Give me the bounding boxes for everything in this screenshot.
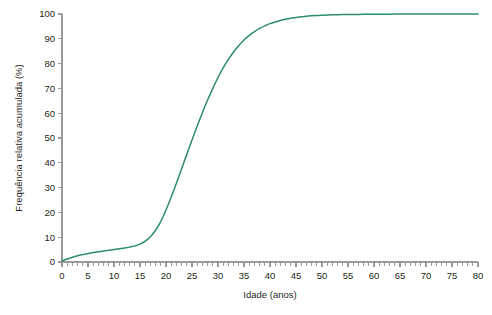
x-tick-label: 20: [161, 270, 172, 281]
x-tick-label: 15: [135, 270, 146, 281]
y-tick-label: 50: [44, 132, 55, 143]
x-tick-label: 55: [343, 270, 354, 281]
x-tick-label: 5: [85, 270, 90, 281]
y-tick-label: 0: [50, 256, 55, 267]
x-tick-label: 0: [59, 270, 64, 281]
x-axis-ticks: 05101520253035404550556065707580: [59, 262, 483, 281]
x-tick-label: 50: [317, 270, 328, 281]
y-tick-label: 40: [44, 157, 55, 168]
x-tick-label: 75: [447, 270, 458, 281]
y-tick-label: 20: [44, 207, 55, 218]
x-tick-label: 25: [187, 270, 198, 281]
x-tick-label: 65: [395, 270, 406, 281]
x-tick-label: 45: [291, 270, 302, 281]
x-tick-label: 70: [421, 270, 432, 281]
y-tick-label: 90: [44, 33, 55, 44]
x-tick-label: 80: [473, 270, 484, 281]
y-axis-title: Frequência relativa acumulada (%): [13, 64, 24, 211]
series-line-frequencia-acumulada: [62, 14, 478, 261]
y-tick-label: 80: [44, 58, 55, 69]
x-tick-label: 40: [265, 270, 276, 281]
x-tick-label: 10: [109, 270, 120, 281]
x-tick-label: 35: [239, 270, 250, 281]
x-tick-label: 60: [369, 270, 380, 281]
y-tick-label: 100: [39, 8, 55, 19]
y-tick-label: 60: [44, 108, 55, 119]
x-axis-title: Idade (anos): [243, 289, 296, 300]
y-tick-label: 70: [44, 83, 55, 94]
y-tick-label: 10: [44, 232, 55, 243]
y-tick-label: 30: [44, 182, 55, 193]
chart-canvas: 0102030405060708090100 05101520253035404…: [0, 0, 492, 315]
x-tick-label: 30: [213, 270, 224, 281]
y-axis-ticks: 0102030405060708090100: [39, 8, 62, 267]
cumulative-frequency-chart: 0102030405060708090100 05101520253035404…: [0, 0, 492, 315]
